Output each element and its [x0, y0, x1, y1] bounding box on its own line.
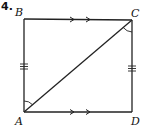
vertex-label-D: D — [130, 115, 140, 127]
problem-number: 4. — [1, 0, 13, 13]
vertex-label-A: A — [14, 115, 23, 127]
angle-arc-C — [123, 28, 132, 33]
geometry-figure: 4. — [0, 0, 146, 127]
vertex-label-B: B — [14, 6, 23, 19]
quadrilateral-diagram: 4. — [0, 0, 146, 127]
angle-arc-A — [24, 101, 32, 105]
diagonal-AC — [24, 20, 132, 112]
side-BC — [24, 19, 132, 20]
vertex-label-C: C — [131, 7, 140, 20]
